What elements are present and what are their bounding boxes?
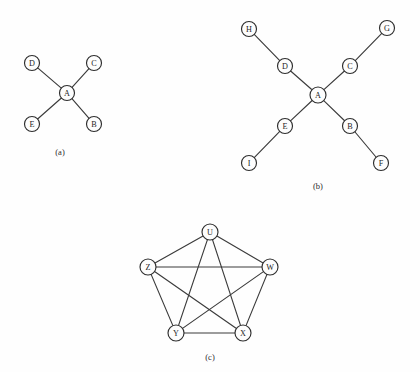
graph-edge-A-D [38, 68, 62, 88]
node-label: D [282, 62, 288, 71]
node-label: A [315, 91, 321, 100]
node-label: C [347, 62, 353, 71]
graph-node-b-A[interactable]: A [310, 87, 326, 103]
panel-caption-a: (a) [55, 147, 65, 157]
graph-node-a-B[interactable]: B [87, 117, 102, 132]
panel-caption-b: (b) [313, 181, 323, 191]
node-label: E [29, 120, 34, 129]
graph-figure-canvas: ABCDE(a)ABCDEFGHI(b)UWXYZ(c) [0, 0, 420, 372]
node-label: Z [145, 263, 150, 272]
graph-node-c-W[interactable]: W [262, 259, 278, 275]
graph-node-a-A[interactable]: A [60, 86, 75, 101]
graph-node-a-E[interactable]: E [25, 117, 40, 132]
graph-nodes-c: UWXYZ [140, 224, 278, 341]
graph-node-a-C[interactable]: C [87, 56, 102, 71]
graph-node-c-X[interactable]: X [235, 325, 251, 341]
graph-edge-U-W [217, 236, 263, 263]
graph-edge-U-Y [179, 240, 208, 326]
graph-edge-A-C [324, 71, 345, 90]
graph-edge-A-C [72, 69, 89, 88]
graph-node-b-B[interactable]: B [343, 119, 358, 134]
graph-node-b-F[interactable]: F [374, 156, 389, 171]
graph-edge-A-D [291, 71, 312, 90]
graph-node-c-Z[interactable]: Z [140, 259, 156, 275]
graph-nodes-a: ABCDE [25, 56, 102, 132]
graph-edge-U-Z [155, 236, 203, 263]
graph-node-a-D[interactable]: D [25, 56, 40, 71]
node-label: Y [173, 329, 179, 338]
graph-edge-D-H [254, 34, 280, 60]
graph-edge-C-G [355, 33, 382, 60]
node-label: G [384, 24, 390, 33]
graph-edge-A-E [290, 100, 312, 120]
graph-node-b-G[interactable]: G [380, 21, 395, 36]
node-label: A [64, 89, 70, 98]
graph-node-c-U[interactable]: U [202, 224, 218, 240]
graph-edge-B-F [355, 132, 376, 158]
graph-node-b-E[interactable]: E [278, 119, 293, 134]
panel-caption-c: (c) [205, 352, 215, 362]
graph-node-c-Y[interactable]: Y [168, 325, 184, 341]
graph-edge-U-X [212, 240, 240, 326]
graph-edge-A-B [324, 101, 345, 121]
graph-panel-a: ABCDE(a) [25, 56, 102, 158]
node-label: F [379, 159, 384, 168]
graph-node-b-D[interactable]: D [278, 59, 293, 74]
node-label: W [266, 263, 274, 272]
node-label: E [282, 122, 287, 131]
graph-panel-c: UWXYZ(c) [140, 224, 278, 362]
graph-panels-layer: ABCDE(a)ABCDEFGHI(b)UWXYZ(c) [25, 21, 395, 363]
graph-edges-c [151, 236, 267, 333]
node-label: D [29, 59, 35, 68]
graph-node-b-C[interactable]: C [343, 59, 358, 74]
node-label: B [91, 120, 97, 129]
graph-node-b-H[interactable]: H [242, 22, 257, 37]
graph-edge-A-B [72, 99, 89, 119]
node-label: X [240, 329, 246, 338]
graph-edge-A-E [38, 98, 62, 119]
graph-figure-container: ABCDE(a)ABCDEFGHI(b)UWXYZ(c) [0, 0, 420, 372]
graph-edge-E-I [254, 131, 280, 157]
node-label: H [246, 25, 252, 34]
graph-node-b-I[interactable]: I [242, 156, 257, 171]
node-label: B [347, 122, 353, 131]
graph-nodes-b: ABCDEFGHI [242, 21, 395, 171]
node-label: C [91, 59, 97, 68]
node-label: U [207, 228, 213, 237]
node-label: I [248, 159, 251, 168]
graph-panel-b: ABCDEFGHI(b) [242, 21, 395, 192]
